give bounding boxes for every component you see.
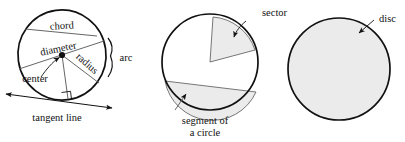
tangent-line (6, 94, 112, 108)
label-segment-line1: segment of (182, 115, 229, 126)
figure-canvas: chord diameter radius center arc tangent… (0, 0, 405, 142)
panel-circle-parts: chord diameter radius center arc tangent… (6, 4, 133, 123)
panel-sector-segment: sector segment of a circle (162, 7, 288, 138)
arc-bracket (108, 38, 112, 77)
disc-region (288, 18, 390, 120)
panel-disc: disc (288, 13, 396, 120)
label-disc: disc (379, 13, 396, 24)
label-radius: radius (74, 51, 100, 76)
label-segment-line2: a circle (190, 127, 221, 138)
label-chord: chord (50, 19, 75, 31)
label-sector: sector (262, 7, 288, 18)
label-center: center (22, 73, 48, 84)
label-diameter: diameter (39, 39, 78, 58)
circle-terminology-figure: chord diameter radius center arc tangent… (0, 0, 405, 142)
label-tangent-line: tangent line (32, 112, 82, 123)
sector-region (210, 17, 255, 62)
label-arc: arc (120, 52, 133, 63)
